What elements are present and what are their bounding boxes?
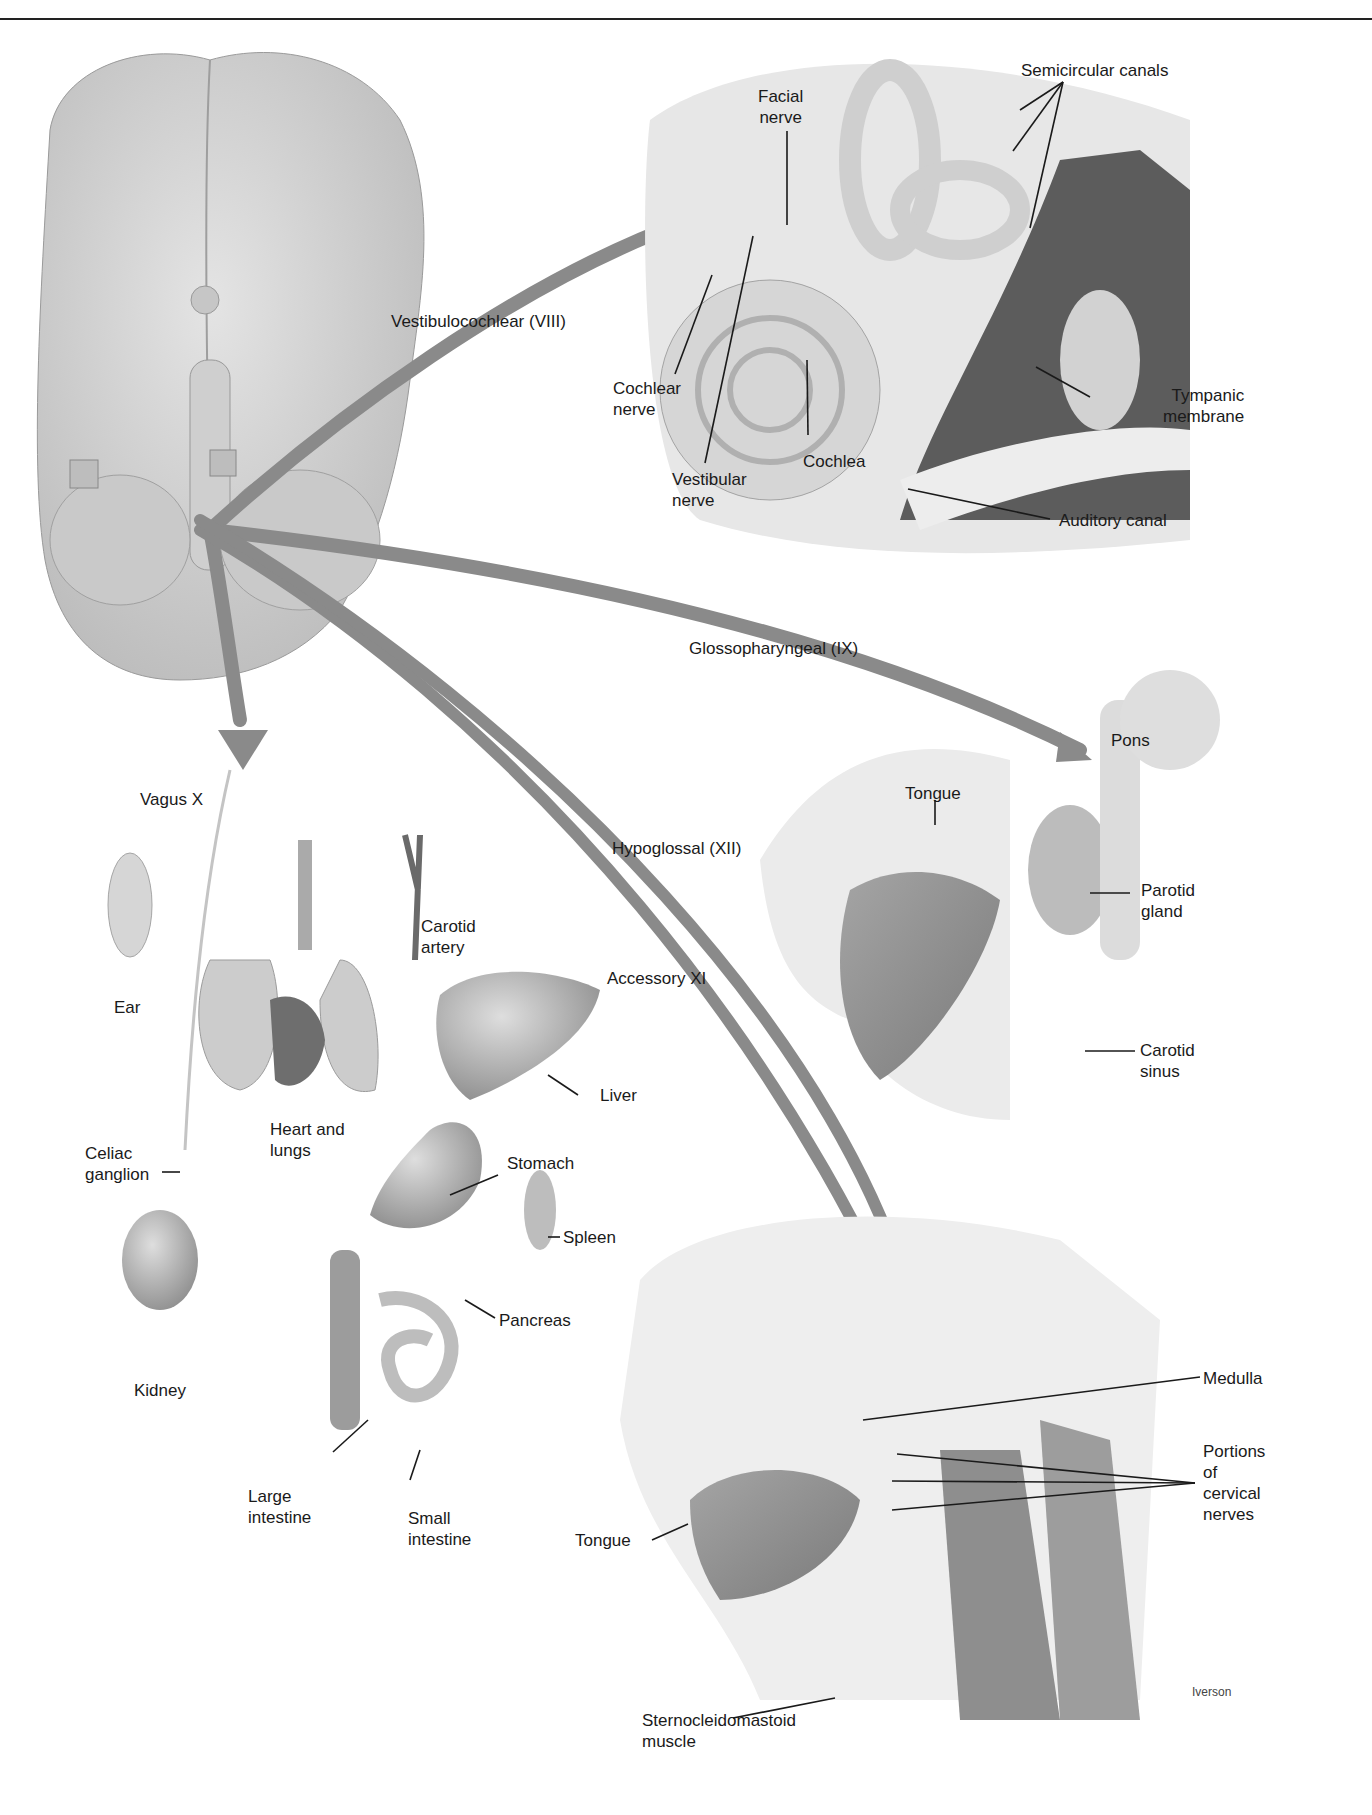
label-auditory-canal: Auditory canal bbox=[1059, 510, 1167, 531]
label-stomach: Stomach bbox=[507, 1153, 574, 1174]
artist-signature: Iverson bbox=[1192, 1685, 1231, 1699]
label-large-intestine: Large intestine bbox=[248, 1486, 311, 1528]
label-vestibulocochlear: Vestibulocochlear (VIII) bbox=[391, 311, 566, 332]
label-cochlea: Cochlea bbox=[803, 451, 865, 472]
label-glossopharyngeal: Glossopharyngeal (IX) bbox=[689, 638, 858, 659]
label-small-intestine: Small intestine bbox=[408, 1508, 471, 1550]
label-accessory: Accessory XI bbox=[607, 968, 706, 989]
label-medulla: Medulla bbox=[1203, 1368, 1263, 1389]
label-portions-cervical-nerves: Portions of cervical nerves bbox=[1203, 1441, 1265, 1525]
label-liver: Liver bbox=[600, 1085, 637, 1106]
label-kidney: Kidney bbox=[134, 1380, 186, 1401]
label-hypoglossal: Hypoglossal (XII) bbox=[612, 838, 741, 859]
label-cochlear-nerve: Cochlear nerve bbox=[613, 378, 681, 420]
label-semicircular-canals: Semicircular canals bbox=[1021, 60, 1168, 81]
label-parotid-gland: Parotid gland bbox=[1141, 880, 1195, 922]
label-pons: Pons bbox=[1111, 730, 1150, 751]
label-facial-nerve: Facial nerve bbox=[758, 86, 803, 128]
label-tympanic-membrane: Tympanic membrane bbox=[1163, 385, 1244, 427]
neck-panel bbox=[620, 1217, 1160, 1720]
label-pancreas: Pancreas bbox=[499, 1310, 571, 1331]
label-heart-and-lungs: Heart and lungs bbox=[270, 1119, 345, 1161]
label-tongue-lower: Tongue bbox=[575, 1530, 631, 1551]
label-carotid-artery: Carotid artery bbox=[421, 916, 476, 958]
label-sternocleidomastoid: Sternocleidomastoid muscle bbox=[642, 1710, 796, 1752]
label-celiac-ganglion: Celiac ganglion bbox=[85, 1143, 149, 1185]
label-spleen: Spleen bbox=[563, 1227, 616, 1248]
label-tongue-upper: Tongue bbox=[905, 783, 961, 804]
vagus-organs bbox=[108, 770, 600, 1430]
label-ear: Ear bbox=[114, 997, 140, 1018]
label-vagus: Vagus X bbox=[140, 789, 203, 810]
label-carotid-sinus: Carotid sinus bbox=[1140, 1040, 1195, 1082]
label-vestibular-nerve: Vestibular nerve bbox=[672, 469, 747, 511]
brain-inferior-view bbox=[37, 53, 424, 681]
